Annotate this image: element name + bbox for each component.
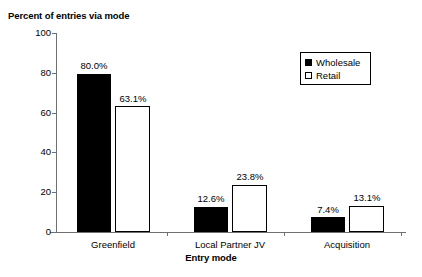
bar-value-acquisition-retail: 13.1% (335, 192, 399, 203)
chart-title: Percent of entries via mode (8, 10, 129, 21)
bar-local-partner-jv-retail (232, 185, 267, 232)
bar-chart: Percent of entries via mode 0 20 40 60 8… (0, 0, 422, 277)
x-tick-separator-1 (167, 232, 168, 236)
legend-item-retail: Retail (305, 69, 370, 82)
legend-label-retail: Retail (316, 70, 340, 81)
x-axis-title: Entry mode (0, 252, 422, 263)
filled-square-icon (305, 59, 312, 66)
bar-value-local-partner-jv-retail: 23.8% (218, 171, 282, 182)
y-tick-label-40: 40 (40, 146, 51, 157)
bar-value-greenfield-retail: 63.1% (101, 93, 165, 104)
hollow-square-icon (305, 72, 312, 79)
category-label-acquisition: Acquisition (287, 239, 407, 250)
category-label-local-partner-jv: Local Partner JV (170, 239, 290, 250)
bar-value-greenfield-wholesale: 80.0% (62, 60, 126, 71)
y-tick-label-60: 60 (40, 107, 51, 118)
bar-local-partner-jv-wholesale (194, 207, 228, 232)
chart-legend: Wholesale Retail (300, 52, 371, 85)
bar-acquisition-wholesale (311, 217, 345, 232)
bar-acquisition-retail (349, 206, 384, 232)
legend-label-wholesale: Wholesale (316, 57, 360, 68)
category-label-greenfield: Greenfield (53, 239, 173, 250)
x-tick-separator-3 (401, 232, 402, 236)
y-tick-label-100: 100 (35, 27, 51, 38)
legend-item-wholesale: Wholesale (305, 56, 370, 69)
x-axis-line (50, 232, 406, 233)
y-axis-line (56, 33, 57, 232)
y-tick-label-0: 0 (46, 226, 51, 237)
y-tick-label-80: 80 (40, 67, 51, 78)
y-tick-label-20: 20 (40, 186, 51, 197)
x-tick-separator-2 (284, 232, 285, 236)
bar-greenfield-retail (115, 106, 150, 232)
